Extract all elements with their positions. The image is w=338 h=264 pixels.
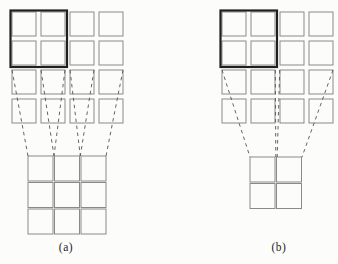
panel-a-bold-window-outline xyxy=(11,11,68,68)
panel-a-top-grid-cell xyxy=(70,12,94,36)
panel-a-pooling-connection-line xyxy=(54,70,65,156)
panel-b-top-grid-cell xyxy=(280,41,304,65)
panel-b-bottom-grid-cell xyxy=(277,184,302,209)
panel-a-top-grid-cell xyxy=(12,99,36,123)
panel-b-top-grid-cell xyxy=(251,41,275,65)
panel-a-bottom-grid-cell xyxy=(81,183,106,208)
figure-canvas: (a) (b) xyxy=(0,0,338,264)
panel-b-bottom-grid-cell xyxy=(277,157,302,182)
panel-a-top-grid-cell xyxy=(70,99,94,123)
panel-b-top-grid-cell xyxy=(251,70,275,94)
panel-a-bottom-grid-cell xyxy=(28,209,53,234)
panel-a-top-grid-cell xyxy=(12,70,36,94)
panel-b-top-grid-cell xyxy=(309,12,333,36)
panel-a-top-grid-cell xyxy=(70,70,94,94)
panel-a-top-grid-cell xyxy=(99,41,123,65)
panel-b-label: (b) xyxy=(259,241,299,253)
panel-a-pooling-connection-line xyxy=(106,70,123,156)
panel-a-bottom-grid-cell xyxy=(55,183,80,208)
panel-a-top-grid-cell xyxy=(99,12,123,36)
panel-b-bottom-grid-cell xyxy=(250,157,275,182)
panel-b-top-grid-cell xyxy=(280,12,304,36)
panel-b-top-grid-cell xyxy=(222,41,246,65)
panel-b-top-grid-cell xyxy=(251,12,275,36)
panel-a-pooling-connection-line xyxy=(12,70,28,156)
panel-a-top-grid-cell xyxy=(41,99,65,123)
panel-a-bottom-grid-cell xyxy=(55,209,80,234)
panel-a-top-grid-cell xyxy=(99,99,123,123)
panel-b-top-grid-cell xyxy=(222,70,246,94)
panel-a-pooling-connection-line xyxy=(70,70,80,156)
panel-b-top-grid-cell xyxy=(309,41,333,65)
panel-b-bottom-grid-cell xyxy=(250,184,275,209)
panel-a-bottom-grid-cell xyxy=(55,156,80,181)
panel-a-bottom-grid-cell xyxy=(81,209,106,234)
panel-a-bottom-grid-cell xyxy=(28,156,53,181)
panel-b-top-grid-cell xyxy=(309,70,333,94)
panel-a-top-grid-cell xyxy=(41,12,65,36)
panel-a-pooling-connection-line xyxy=(80,70,94,156)
panel-a-top-grid-cell xyxy=(99,70,123,94)
panel-a-top-grid-cell xyxy=(41,41,65,65)
panel-a-pooling-connection-line xyxy=(41,70,54,156)
panel-a-bottom-grid-cell xyxy=(28,183,53,208)
panel-a-top-grid-cell xyxy=(70,41,94,65)
panel-b-top-grid-cell xyxy=(280,70,304,94)
panel-b-pooling-connection-line xyxy=(277,70,280,157)
panel-a-label: (a) xyxy=(46,241,86,253)
pooling-diagram-svg xyxy=(0,0,338,264)
panel-b-top-grid-cell xyxy=(309,99,333,123)
panel-b-top-grid-cell xyxy=(222,12,246,36)
panel-b-bold-window-outline xyxy=(221,11,278,68)
panel-b-pooling-connection-line xyxy=(302,70,333,157)
panel-a-top-grid-cell xyxy=(12,12,36,36)
panel-a-bottom-grid-cell xyxy=(81,156,106,181)
panel-a-top-grid-cell xyxy=(41,70,65,94)
panel-a-top-grid-cell xyxy=(12,41,36,65)
panel-b-top-grid-cell xyxy=(251,99,275,123)
panel-b-top-grid-cell xyxy=(280,99,304,123)
panel-b-top-grid-cell xyxy=(222,99,246,123)
